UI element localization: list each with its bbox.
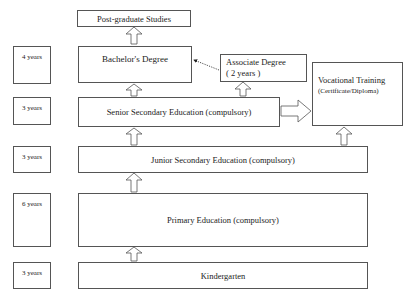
- arrow-kindergarten-to-primary: [126, 247, 142, 261]
- arrow-primary-to-junior: [126, 173, 142, 192]
- bachelor-label: Bachelor's Degree: [102, 54, 168, 64]
- primary-box: Primary Education (compulsory): [78, 193, 368, 247]
- primary-duration-box: 6 years: [13, 193, 51, 247]
- postgrad-box: Post-graduate Studies: [77, 10, 191, 27]
- kindergarten-box: Kindergarten: [78, 262, 368, 289]
- associate-sublabel: ( 2 years ): [226, 68, 260, 79]
- postgrad-label: Post-graduate Studies: [97, 14, 171, 24]
- senior-duration-box: 3 years: [13, 97, 51, 125]
- kindergarten-duration-box: 3 years: [13, 262, 51, 289]
- junior-duration-box: 3 years: [13, 146, 51, 173]
- arrow-associate-to-bachelor: [194, 60, 219, 70]
- arrow-senior-to-vocational: [281, 100, 311, 122]
- primary-label: Primary Education (compulsory): [167, 215, 279, 225]
- bachelor-duration-box: 4 years: [13, 46, 51, 84]
- arrow-senior-to-bachelor: [126, 84, 142, 96]
- associate-box: Associate Degree ( 2 years ): [220, 54, 307, 82]
- kindergarten-duration: 3 years: [22, 269, 42, 277]
- senior-label: Senior Secondary Education (compulsory): [107, 107, 252, 117]
- bachelor-box: Bachelor's Degree: [78, 46, 192, 83]
- vocational-sublabel: (Certificate/Diploma): [318, 87, 379, 95]
- vocational-box: Vocational Training (Certificate/Diploma…: [312, 62, 403, 126]
- arrow-junior-to-senior: [126, 128, 142, 145]
- junior-duration: 3 years: [22, 153, 42, 161]
- associate-label: Associate Degree: [226, 57, 286, 68]
- arrow-senior-to-associate: [235, 82, 251, 96]
- vocational-label: Vocational Training: [318, 75, 385, 85]
- bachelor-duration: 4 years: [22, 53, 42, 61]
- senior-box: Senior Secondary Education (compulsory): [78, 97, 280, 127]
- junior-box: Junior Secondary Education (compulsory): [78, 146, 368, 173]
- kindergarten-label: Kindergarten: [201, 271, 246, 281]
- arrow-junior-to-vocational: [336, 127, 352, 145]
- arrow-bachelor-to-postgrad: [126, 27, 142, 44]
- primary-duration: 6 years: [22, 200, 42, 208]
- senior-duration: 3 years: [22, 104, 42, 112]
- junior-label: Junior Secondary Education (compulsory): [151, 155, 295, 165]
